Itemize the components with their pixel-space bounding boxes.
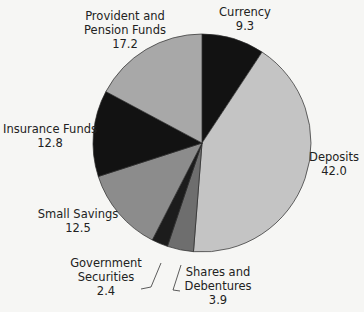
label-text: Provident and — [84, 9, 166, 23]
label-currency: Currency 9.3 — [219, 5, 271, 33]
label-text: Shares and — [185, 265, 252, 279]
label-insurance-funds: Insurance Funds 12.8 — [3, 122, 97, 150]
label-value: 12.5 — [38, 221, 119, 235]
label-government-securities: Government Securities 2.4 — [70, 256, 142, 298]
label-text: Currency — [219, 5, 271, 19]
label-value: 3.9 — [185, 293, 252, 307]
label-value: 42.0 — [309, 164, 359, 178]
label-text: Securities — [70, 270, 142, 284]
label-text: Government — [70, 256, 142, 270]
label-text: Deposits — [309, 150, 359, 164]
label-deposits: Deposits 42.0 — [309, 150, 359, 178]
leader-line-shares-debentures — [173, 265, 181, 291]
label-value: 12.8 — [3, 136, 97, 150]
label-text: Insurance Funds — [3, 122, 97, 136]
label-text: Debentures — [185, 279, 252, 293]
label-value: 17.2 — [84, 37, 166, 51]
label-shares-debentures: Shares and Debentures 3.9 — [185, 265, 252, 307]
label-text: Pension Funds — [84, 23, 166, 37]
label-value: 9.3 — [219, 19, 271, 33]
label-small-savings: Small Savings 12.5 — [38, 207, 119, 235]
label-provident-pension-funds: Provident and Pension Funds 17.2 — [84, 9, 166, 51]
label-value: 2.4 — [70, 284, 142, 298]
pie-slices — [93, 34, 311, 252]
leader-line-government-securities — [141, 263, 161, 289]
label-text: Small Savings — [38, 207, 119, 221]
